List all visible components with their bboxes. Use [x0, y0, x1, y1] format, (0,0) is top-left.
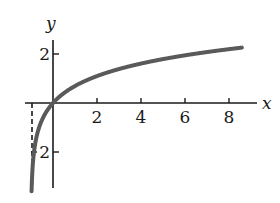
y-tick-label: 2: [39, 142, 50, 162]
y-axis-label: y: [45, 13, 56, 33]
x-axis-label: x: [262, 93, 272, 113]
x-tick-label: 4: [136, 107, 147, 127]
x-tick-label: 6: [180, 107, 191, 127]
x-tick-label: 8: [224, 107, 235, 127]
y-tick-label: 2: [39, 44, 50, 64]
chart: 246822 x y: [0, 0, 280, 203]
x-tick-label: 2: [92, 107, 103, 127]
